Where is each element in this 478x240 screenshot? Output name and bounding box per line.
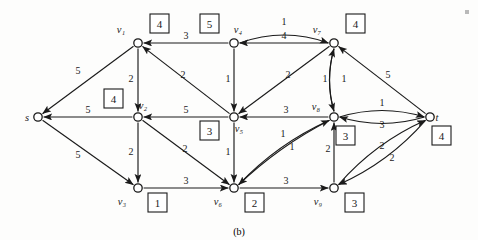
node-v9[interactable]	[330, 184, 338, 192]
node-label-t: t	[436, 112, 440, 123]
node-v3[interactable]	[134, 184, 142, 192]
node-excess-value-v1: 4	[157, 18, 163, 30]
node-excess-value-v6: 2	[252, 197, 258, 209]
edge-capacity-v8-v7: 1	[323, 73, 328, 84]
edge-capacity-v4-v5: 1	[226, 73, 231, 84]
edge-capacity-v6-v9: 3	[284, 175, 289, 186]
node-excess-value-v3: 1	[155, 197, 161, 209]
edge-capacity-v7-v4: 4	[282, 30, 287, 41]
node-excess-value-v9: 3	[352, 197, 358, 209]
node-label-v2: v₂	[139, 100, 148, 111]
edge-capacity-v2-s: 5	[86, 104, 91, 115]
node-s[interactable]	[34, 113, 42, 121]
edge-capacity-v1-v2: 2	[129, 73, 134, 84]
flow-network-graph: 555223215231142311113251322sv₁4v₂4v₃1v₄5…	[0, 0, 478, 240]
edge-capacity-v8-t: 1	[380, 97, 385, 108]
node-label-v5: v₅	[235, 123, 244, 134]
node-v7[interactable]	[330, 39, 338, 47]
node-label-v3: v₃	[118, 196, 127, 207]
edge-capacity-v5-v6: 1	[226, 146, 231, 157]
edge-capacity-v1-s: 5	[76, 65, 81, 76]
node-v8[interactable]	[330, 113, 338, 121]
edge-capacity-v4-v7: 1	[282, 16, 287, 27]
edge-v8-to-t	[340, 111, 425, 118]
edge-capacity-v3-v6: 3	[184, 175, 189, 186]
edge-s-to-v3	[43, 120, 134, 185]
node-t[interactable]	[426, 113, 434, 121]
node-v6[interactable]	[230, 184, 238, 192]
page-mark-icon	[465, 10, 469, 14]
node-excess-value-v2: 4	[111, 93, 117, 105]
node-label-v6: v₆	[214, 196, 223, 207]
node-label-v4: v₄	[234, 24, 243, 35]
node-v2[interactable]	[134, 113, 142, 121]
node-v1[interactable]	[134, 39, 142, 47]
edge-capacity-t-v9: 2	[390, 152, 395, 163]
edge-capacity-v2-v3: 2	[129, 146, 134, 157]
edge-capacity-v8-v6: 1	[290, 141, 295, 152]
flow-network-figure: 555223215231142311113251322sv₁4v₂4v₃1v₄5…	[0, 0, 478, 240]
node-label-v8: v₈	[312, 101, 321, 112]
edge-capacity-v9-t: 2	[380, 140, 385, 151]
node-label-v1: v₁	[117, 24, 125, 35]
node-label-v7: v₇	[313, 24, 322, 35]
node-excess-value-v5: 3	[207, 125, 213, 137]
edge-capacity-v7-v8: 1	[342, 73, 347, 84]
node-v5[interactable]	[230, 113, 238, 121]
edge-capacity-v5-v1: 2	[181, 69, 186, 80]
edge-layer	[43, 35, 426, 188]
node-layer	[34, 14, 451, 212]
node-excess-value-v7: 4	[353, 18, 359, 30]
node-label-s: s	[25, 112, 29, 123]
edge-capacity-v7-v5: 2	[286, 69, 291, 80]
edge-v7-to-v8	[330, 49, 335, 112]
node-v4[interactable]	[230, 39, 238, 47]
edge-capacity-v4-v1: 3	[184, 30, 189, 41]
figure-caption: (b)	[0, 226, 478, 237]
node-label-v9: v₉	[314, 196, 323, 207]
edge-capacity-v8-v5: 3	[284, 104, 289, 115]
edge-capacity-v5-v2: 5	[184, 104, 189, 115]
edge-capacity-s-v3: 5	[76, 149, 81, 160]
edge-capacity-v2-v6: 2	[183, 143, 188, 154]
edge-capacity-t-v8: 3	[380, 119, 385, 130]
node-excess-value-v8: 3	[343, 130, 349, 142]
node-excess-value-t: 4	[439, 130, 445, 142]
node-excess-value-v4: 5	[207, 18, 213, 30]
edge-capacity-v9-v8: 2	[326, 143, 331, 154]
edge-capacity-t-v7: 5	[386, 69, 391, 80]
edge-capacity-v6-v8: 1	[281, 128, 286, 139]
